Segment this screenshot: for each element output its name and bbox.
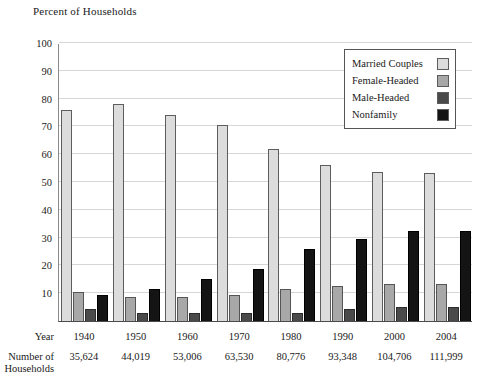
bar-female-headed-1960 (177, 297, 188, 321)
y-axis-tick-label: 80 (42, 93, 53, 104)
legend-label: Married Couples (352, 58, 423, 69)
y-axis-tick-label: 60 (42, 149, 53, 160)
y-axis-tick-label: 50 (42, 177, 53, 188)
legend-swatch-icon (437, 92, 449, 104)
bar-female-headed-1940 (73, 292, 84, 321)
legend-item-female-headed: Female-Headed (352, 72, 449, 89)
table-cell: 53,006 (173, 351, 202, 362)
legend-swatch-icon (437, 75, 449, 87)
bar-married-couples-1960 (165, 115, 176, 321)
table-row-label: Year (0, 331, 54, 343)
table-cell: 2004 (436, 331, 457, 342)
y-axis-tick-label: 10 (42, 288, 53, 299)
table-cell: 1980 (280, 331, 301, 342)
legend-label: Female-Headed (352, 75, 418, 86)
data-table: Year19401950196019701980199020002004Numb… (0, 331, 495, 374)
bar-nonfamily-1970 (253, 269, 264, 321)
y-axis-tick-label: 90 (42, 65, 53, 76)
bar-group-1980 (266, 44, 318, 321)
bar-married-couples-1950 (113, 104, 124, 321)
table-cell: 1970 (229, 331, 250, 342)
table-cell: 1940 (73, 331, 94, 342)
bar-female-headed-2000 (384, 284, 395, 321)
table-row: Number ofHouseholds35,62444,01953,00663,… (0, 351, 495, 374)
bar-nonfamily-1950 (149, 289, 160, 321)
bar-married-couples-1980 (268, 149, 279, 321)
bar-married-couples-2004 (424, 173, 435, 321)
table-row-label-line2: Households (0, 363, 54, 374)
table-cell: 35,624 (69, 351, 98, 362)
y-axis-tick-label: 30 (42, 232, 53, 243)
table-cell: 1960 (177, 331, 198, 342)
bar-married-couples-1990 (320, 165, 331, 321)
table-cell: 93,348 (328, 351, 357, 362)
bar-nonfamily-2000 (408, 231, 419, 321)
legend-swatch-icon (437, 58, 449, 70)
bar-married-couples-2000 (372, 172, 383, 321)
y-axis-tick-label: 40 (42, 204, 53, 215)
bar-male-headed-1950 (137, 313, 148, 321)
table-row: Year19401950196019701980199020002004 (0, 331, 495, 351)
bar-nonfamily-1990 (356, 239, 367, 321)
bar-male-headed-1990 (344, 309, 355, 321)
y-axis-tick-label: 100 (36, 38, 52, 49)
legend: Married CouplesFemale-HeadedMale-HeadedN… (344, 49, 456, 129)
table-row-label: Number ofHouseholds (0, 351, 54, 374)
bar-group-1940 (59, 44, 111, 321)
table-row-label-line1: Year (35, 331, 54, 342)
bar-married-couples-1940 (61, 110, 72, 321)
bar-married-couples-1970 (217, 125, 228, 321)
legend-label: Nonfamily (352, 109, 398, 120)
bar-nonfamily-2004 (460, 231, 471, 321)
bar-male-headed-1960 (189, 313, 200, 321)
bar-female-headed-2004 (436, 284, 447, 321)
legend-label: Male-Headed (352, 92, 409, 103)
legend-item-nonfamily: Nonfamily (352, 106, 449, 123)
table-cell: 44,019 (121, 351, 150, 362)
legend-swatch-icon (437, 109, 449, 121)
table-row-label-line1: Number of (8, 351, 54, 362)
table-cell: 2000 (384, 331, 405, 342)
bar-male-headed-1940 (85, 309, 96, 321)
bar-male-headed-1980 (292, 313, 303, 321)
bar-female-headed-1980 (280, 289, 291, 321)
bar-female-headed-1990 (332, 286, 343, 321)
bar-nonfamily-1940 (97, 295, 108, 321)
table-cell: 1950 (125, 331, 146, 342)
bar-male-headed-2004 (448, 307, 459, 321)
y-axis-tick-label: 20 (42, 260, 53, 271)
bar-nonfamily-1960 (201, 279, 212, 321)
chart-title: Percent of Households (33, 5, 137, 17)
bar-group-1950 (111, 44, 163, 321)
table-cell: 1990 (332, 331, 353, 342)
y-axis-tick-label: 70 (42, 121, 53, 132)
legend-item-married-couples: Married Couples (352, 55, 449, 72)
bar-group-1970 (214, 44, 266, 321)
table-cell: 111,999 (429, 351, 462, 362)
bar-female-headed-1950 (125, 297, 136, 321)
bar-male-headed-2000 (396, 307, 407, 321)
bar-female-headed-1970 (229, 295, 240, 321)
gridline (59, 42, 472, 43)
legend-item-male-headed: Male-Headed (352, 89, 449, 106)
bar-nonfamily-1980 (304, 249, 315, 321)
bar-group-1960 (163, 44, 215, 321)
bar-male-headed-1970 (241, 313, 252, 321)
table-cell: 104,706 (377, 351, 411, 362)
table-cell: 63,530 (225, 351, 254, 362)
table-cell: 80,776 (276, 351, 305, 362)
